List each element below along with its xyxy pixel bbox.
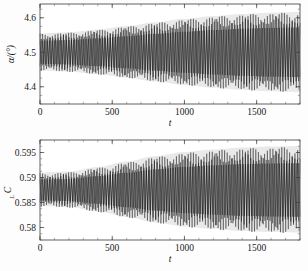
cl-vs-t-plot: 0500100015000.580.5850.590.595 t C L — [0, 136, 308, 271]
cl-x-tick-label: 1500 — [247, 243, 266, 253]
alpha-x-tick-label: 0 — [38, 107, 43, 117]
cl-x-tick-label: 500 — [105, 243, 120, 253]
chart-panel-alpha: 0500100015004.44.54.6 t α/(°) — [0, 0, 308, 135]
y-axis-label-subscript-cl: L — [8, 195, 15, 200]
alpha-x-tick-label: 1000 — [175, 107, 194, 117]
alpha-y-tick-label: 4.4 — [24, 82, 36, 92]
alpha-vs-t-plot: 0500100015004.44.54.6 t α/(°) — [0, 0, 308, 135]
cl-x-tick-label: 0 — [38, 243, 43, 253]
figure-container: 0500100015004.44.54.6 t α/(°) 0500100015… — [0, 0, 308, 271]
x-axis-label-alpha: t — [169, 118, 172, 128]
alpha-x-tick-label: 500 — [105, 107, 120, 117]
x-axis-label-cl: t — [169, 254, 172, 264]
y-axis-label-cl: C — [3, 186, 13, 193]
cl-y-tick-label: 0.585 — [15, 198, 37, 208]
cl-y-tick-label: 0.59 — [19, 173, 36, 183]
alpha-y-tick-label: 4.5 — [24, 48, 36, 58]
alpha-x-tick-label: 1500 — [247, 107, 266, 117]
y-axis-label-alpha: α/(°) — [6, 45, 17, 63]
cl-y-tick-label: 0.58 — [19, 223, 36, 233]
cl-y-tick-label: 0.595 — [15, 148, 37, 158]
cl-x-tick-label: 1000 — [175, 243, 194, 253]
chart-panel-cl: 0500100015000.580.5850.590.595 t C L — [0, 136, 308, 271]
alpha-y-tick-label: 4.6 — [24, 13, 36, 23]
